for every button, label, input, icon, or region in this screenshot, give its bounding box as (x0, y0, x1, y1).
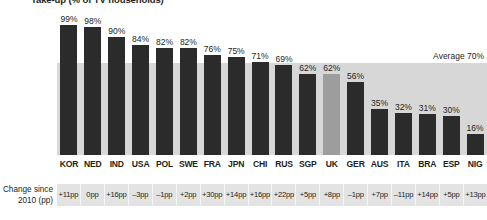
bar-ger[interactable] (347, 82, 364, 155)
change-value-ind: +16pp (105, 184, 129, 206)
bar-value-label: 56% (347, 71, 364, 81)
bar-value-label: 30% (443, 105, 460, 115)
bar-ned[interactable] (84, 27, 101, 155)
category-label-uk: UK (320, 157, 344, 171)
bar-value-label: 31% (419, 103, 436, 113)
category-label-ger: GER (344, 157, 368, 171)
change-value-fra: +30pp (201, 184, 225, 206)
change-caption-line-1: Change since (0, 184, 53, 195)
change-value-ger: –1pp (344, 184, 368, 206)
change-value-swe: +2pp (177, 184, 201, 206)
bar-value-label: 82% (156, 37, 173, 47)
bar-value-label: 16% (467, 123, 484, 133)
change-value-bra: +14pp (416, 184, 440, 206)
bar-value-label: 75% (228, 46, 245, 56)
change-since-row: Change since 2010 (pp) +11pp0pp+16pp–3pp… (0, 184, 487, 208)
change-value-kor: +11pp (57, 184, 81, 206)
bar-value-label: 82% (180, 37, 197, 47)
bar-value-label: 71% (252, 51, 269, 61)
category-label-aus: AUS (368, 157, 392, 171)
chart-title: Take-up (% of TV households) (31, 0, 164, 5)
bar-slot[interactable]: 31% (415, 14, 439, 155)
bar-slot[interactable]: 71% (248, 14, 272, 155)
change-value-rus: +22pp (272, 184, 296, 206)
bar-series: 99%98%90%84%82%82%76%75%71%69%62%62%56%3… (57, 14, 487, 155)
bar-value-label: 62% (323, 63, 340, 73)
bar-value-label: 62% (299, 63, 316, 73)
bar-sgp[interactable] (299, 74, 316, 155)
bar-usa[interactable] (132, 45, 149, 155)
category-label-pol: POL (153, 157, 177, 171)
bar-esp[interactable] (443, 116, 460, 155)
bar-value-label: 98% (84, 16, 101, 26)
change-caption-line-2: 2010 (pp) (0, 195, 53, 206)
change-since-caption: Change since 2010 (pp) (0, 184, 53, 206)
category-label-rus: RUS (272, 157, 296, 171)
bar-value-label: 90% (108, 26, 125, 36)
bar-rus[interactable] (275, 65, 292, 155)
bar-slot[interactable]: 32% (391, 14, 415, 155)
bar-slot[interactable]: 62% (320, 14, 344, 155)
bar-fra[interactable] (204, 55, 221, 155)
category-label-swe: SWE (176, 157, 200, 171)
change-value-jpn: +14pp (225, 184, 249, 206)
category-label-bra: BRA (415, 157, 439, 171)
category-label-ned: NED (81, 157, 105, 171)
change-value-ned: 0pp (81, 184, 105, 206)
bar-slot[interactable]: 90% (105, 14, 129, 155)
bar-slot[interactable]: 30% (439, 14, 463, 155)
change-value-ita: –11pp (392, 184, 416, 206)
bar-swe[interactable] (180, 48, 197, 155)
bar-slot[interactable]: 84% (129, 14, 153, 155)
bar-bra[interactable] (419, 114, 436, 155)
bar-aus[interactable] (371, 109, 388, 155)
category-label-ita: ITA (391, 157, 415, 171)
bar-nig[interactable] (467, 134, 484, 155)
bar-slot[interactable]: 76% (200, 14, 224, 155)
change-value-sgp: +5pp (296, 184, 320, 206)
bar-slot[interactable]: 62% (296, 14, 320, 155)
bar-value-label: 99% (60, 14, 77, 24)
bar-slot[interactable]: 99% (57, 14, 81, 155)
category-axis: KORNEDINDUSAPOLSWEFRAJPNCHIRUSSGPUKGERAU… (57, 157, 487, 171)
bar-kor[interactable] (60, 25, 77, 155)
category-label-nig: NIG (463, 157, 487, 171)
category-label-kor: KOR (57, 157, 81, 171)
category-label-jpn: JPN (224, 157, 248, 171)
bar-value-label: 35% (371, 98, 388, 108)
bar-jpn[interactable] (228, 57, 245, 155)
change-value-nig: +13pp (464, 184, 487, 206)
bar-slot[interactable]: 16% (463, 14, 487, 155)
change-value-esp: +5pp (440, 184, 464, 206)
bar-slot[interactable]: 35% (368, 14, 392, 155)
bar-value-label: 69% (275, 54, 292, 64)
bar-pol[interactable] (156, 48, 173, 155)
chart-container: Take-up (% of TV households) Average 70%… (0, 0, 487, 220)
category-label-fra: FRA (200, 157, 224, 171)
change-value-chi: +16pp (249, 184, 273, 206)
plot-area: Average 70% 99%98%90%84%82%82%76%75%71%6… (57, 14, 487, 155)
category-label-esp: ESP (439, 157, 463, 171)
change-value-pol: –1pp (153, 184, 177, 206)
change-value-aus: +7pp (368, 184, 392, 206)
bar-slot[interactable]: 75% (224, 14, 248, 155)
bar-value-label: 76% (204, 44, 221, 54)
category-label-usa: USA (129, 157, 153, 171)
category-label-ind: IND (105, 157, 129, 171)
change-value-uk: +8pp (320, 184, 344, 206)
change-value-cells: +11pp0pp+16pp–3pp–1pp+2pp+30pp+14pp+16pp… (57, 184, 487, 206)
bar-slot[interactable]: 56% (344, 14, 368, 155)
bar-ita[interactable] (395, 113, 412, 155)
bar-value-label: 32% (395, 102, 412, 112)
bar-value-label: 84% (132, 34, 149, 44)
bar-slot[interactable]: 82% (176, 14, 200, 155)
category-label-sgp: SGP (296, 157, 320, 171)
bar-ind[interactable] (108, 37, 125, 155)
bar-slot[interactable]: 69% (272, 14, 296, 155)
change-value-usa: –3pp (129, 184, 153, 206)
bar-slot[interactable]: 82% (153, 14, 177, 155)
bar-chi[interactable] (252, 62, 269, 155)
bar-uk[interactable] (323, 74, 340, 155)
category-label-chi: CHI (248, 157, 272, 171)
bar-slot[interactable]: 98% (81, 14, 105, 155)
